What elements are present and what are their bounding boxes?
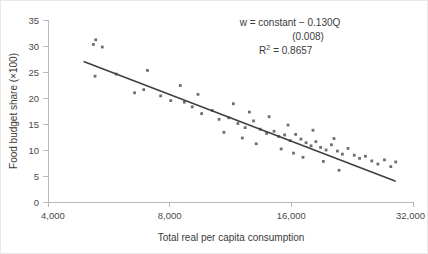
data-point bbox=[338, 169, 341, 172]
data-point bbox=[273, 130, 276, 133]
data-point bbox=[146, 69, 149, 72]
data-point bbox=[310, 144, 313, 147]
data-point bbox=[325, 149, 328, 152]
annotation-std-error: (0.008) bbox=[292, 31, 324, 42]
data-point bbox=[94, 75, 97, 78]
x-tick-label: 4,000 bbox=[41, 210, 65, 221]
r-squared-value: = 0.8657 bbox=[273, 45, 313, 56]
chart-figure: 05101520253035 4,0008,00016,00032,000 To… bbox=[0, 0, 428, 254]
data-point bbox=[287, 124, 290, 127]
data-point bbox=[336, 150, 339, 153]
x-axis: 4,0008,00016,00032,000 bbox=[41, 202, 425, 221]
data-point bbox=[232, 102, 235, 105]
y-tick-label: 10 bbox=[28, 145, 39, 156]
data-point bbox=[200, 112, 203, 115]
data-point bbox=[333, 137, 336, 140]
data-point bbox=[305, 141, 308, 144]
x-tick-label: 16,000 bbox=[277, 210, 306, 221]
data-point bbox=[280, 148, 283, 151]
data-point bbox=[179, 84, 182, 87]
data-point bbox=[244, 126, 247, 129]
y-tick-label: 0 bbox=[34, 197, 39, 208]
data-point bbox=[292, 152, 295, 155]
annotation-r-squared: R2= 0.8657 bbox=[259, 44, 313, 56]
y-tick-label: 20 bbox=[28, 93, 39, 104]
y-tick-label: 25 bbox=[28, 67, 39, 78]
x-tick-label: 32,000 bbox=[396, 210, 425, 221]
data-point bbox=[94, 38, 97, 41]
data-point bbox=[394, 161, 397, 164]
data-point bbox=[197, 93, 200, 96]
data-point bbox=[241, 137, 244, 140]
data-point bbox=[302, 156, 305, 159]
data-point bbox=[223, 131, 226, 134]
y-tick-group bbox=[43, 20, 48, 202]
data-point bbox=[364, 155, 367, 158]
y-tick-label: 5 bbox=[34, 171, 39, 182]
x-tick-label-group: 4,0008,00016,00032,000 bbox=[41, 210, 425, 221]
x-axis-title: Total real per capita consumption bbox=[158, 232, 305, 243]
data-point bbox=[101, 46, 104, 49]
data-point bbox=[191, 105, 194, 108]
data-point bbox=[347, 147, 350, 150]
y-tick-label: 15 bbox=[28, 119, 39, 130]
data-point bbox=[133, 91, 136, 94]
data-point bbox=[294, 133, 297, 136]
data-point bbox=[377, 163, 380, 166]
data-point bbox=[218, 118, 221, 121]
data-point bbox=[353, 154, 356, 157]
data-point bbox=[268, 115, 271, 118]
data-point bbox=[341, 153, 344, 156]
x-tick-label: 8,000 bbox=[158, 210, 182, 221]
annotation-block: w = constant − 0.130Q (0.008) R2= 0.8657 bbox=[239, 17, 341, 56]
data-point bbox=[330, 143, 333, 146]
data-point bbox=[319, 146, 322, 149]
y-tick-label: 30 bbox=[28, 41, 39, 52]
data-point bbox=[169, 99, 172, 102]
y-axis: 05101520253035 bbox=[28, 15, 48, 208]
y-axis-title: Food budget share (×100) bbox=[8, 53, 19, 169]
data-point bbox=[92, 43, 95, 46]
data-point bbox=[236, 122, 239, 125]
regression-line bbox=[84, 62, 396, 182]
annotation-equation: w = constant − 0.130Q bbox=[239, 17, 341, 28]
data-point bbox=[142, 88, 145, 91]
y-tick-label: 35 bbox=[28, 15, 39, 26]
data-point bbox=[370, 160, 373, 163]
data-point bbox=[283, 134, 286, 137]
data-point-group bbox=[92, 38, 397, 171]
data-point bbox=[300, 138, 303, 141]
data-point bbox=[159, 95, 162, 98]
data-point bbox=[383, 158, 386, 161]
r-squared-label: R bbox=[259, 45, 266, 56]
data-point bbox=[314, 140, 317, 143]
x-tick-group bbox=[48, 202, 413, 207]
data-point bbox=[322, 160, 325, 163]
data-point bbox=[255, 142, 258, 145]
data-point bbox=[389, 165, 392, 168]
data-point bbox=[312, 129, 315, 132]
data-point bbox=[252, 119, 255, 122]
r-squared-exponent: 2 bbox=[266, 44, 270, 51]
data-point bbox=[358, 157, 361, 160]
y-tick-label-group: 05101520253035 bbox=[28, 15, 39, 208]
data-point bbox=[248, 111, 251, 114]
scatter-plot: 05101520253035 4,0008,00016,00032,000 To… bbox=[1, 1, 428, 254]
